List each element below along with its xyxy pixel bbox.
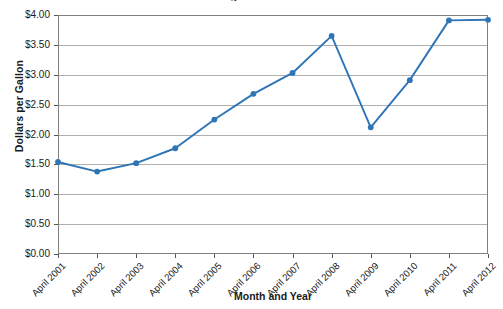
y-axis-tick-mark: [54, 45, 58, 46]
x-axis-tick-mark: [97, 254, 98, 258]
y-axis-tick-label: $1.50: [2, 158, 50, 169]
plot-area: [58, 15, 488, 254]
y-axis-tick-label: $4.00: [2, 9, 50, 20]
y-axis-tick-mark: [54, 75, 58, 76]
y-axis-tick-mark: [54, 105, 58, 106]
x-axis-tick-mark: [371, 254, 372, 258]
y-axis-tick-mark: [54, 194, 58, 195]
x-axis-tick-mark: [136, 254, 137, 258]
x-axis-tick-mark: [449, 254, 450, 258]
x-axis-tick-mark: [175, 254, 176, 258]
y-axis-tick-label: $3.50: [2, 39, 50, 50]
line-chart: Average Gas Prices Dollars per Gallon Mo…: [0, 0, 503, 309]
y-axis-tick-label: $1.00: [2, 188, 50, 199]
y-axis-tick-label: $2.00: [2, 129, 50, 140]
x-axis-tick-mark: [332, 254, 333, 258]
y-axis-tick-label: $0.50: [2, 218, 50, 229]
x-axis-tick-mark: [293, 254, 294, 258]
gridline: [59, 164, 487, 165]
gridline: [59, 45, 487, 46]
y-axis-tick-mark: [54, 164, 58, 165]
gridline: [59, 194, 487, 195]
y-axis-tick-label: $0.00: [2, 248, 50, 259]
x-axis-tick-mark: [488, 254, 489, 258]
y-axis-tick-mark: [54, 224, 58, 225]
y-axis-tick-label: $2.50: [2, 99, 50, 110]
gridline: [59, 224, 487, 225]
x-axis-tick-mark: [253, 254, 254, 258]
chart-title: Average Gas Prices: [0, 0, 503, 1]
y-axis-tick-mark: [54, 15, 58, 16]
y-axis-tick-label: $3.00: [2, 69, 50, 80]
y-axis-tick-mark: [54, 135, 58, 136]
gridline: [59, 105, 487, 106]
x-axis-tick-mark: [410, 254, 411, 258]
gridline: [59, 135, 487, 136]
x-axis-tick-mark: [214, 254, 215, 258]
x-axis-tick-mark: [58, 254, 59, 258]
gridline: [59, 75, 487, 76]
